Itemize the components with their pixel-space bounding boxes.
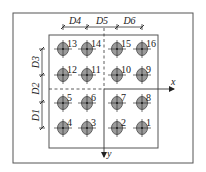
- dimension-label-d4: D4: [68, 15, 81, 26]
- hole-number-label: 11: [91, 64, 101, 75]
- hole-8: 8: [133, 92, 151, 112]
- hole-number-label: 9: [146, 64, 151, 75]
- hole-6: 6: [78, 92, 96, 112]
- hole-1: 1: [133, 117, 151, 137]
- hole-number-label: 10: [121, 64, 131, 75]
- dimension-label-d6: D6: [122, 15, 135, 26]
- dimension-label-d3: D3: [30, 56, 41, 69]
- hole-13: 13: [54, 38, 77, 58]
- hole-12: 12: [54, 64, 77, 84]
- hole-number-label: 13: [67, 38, 77, 49]
- hole-2: 2: [108, 117, 126, 137]
- hole-7: 7: [108, 92, 126, 112]
- hole-3: 3: [78, 117, 96, 137]
- hole-number-label: 1: [146, 117, 151, 128]
- hole-number-label: 8: [146, 92, 151, 103]
- hole-5: 5: [54, 92, 72, 112]
- hole-grid: 13141516121110956784321: [54, 38, 156, 137]
- diagram-svg: D4D5D6 D3D2D1 xy 13141516121110956784321: [0, 0, 206, 172]
- x-axis-label: x: [170, 76, 176, 87]
- dimension-label-d5: D5: [95, 15, 108, 26]
- dimension-label-d1: D1: [30, 109, 41, 122]
- hole-number-label: 2: [121, 117, 126, 128]
- hole-number-label: 5: [67, 92, 72, 103]
- hole-16: 16: [133, 38, 156, 58]
- hole-11: 11: [78, 64, 101, 84]
- hole-number-label: 16: [146, 38, 156, 49]
- hole-15: 15: [108, 38, 131, 58]
- hole-number-label: 14: [91, 38, 101, 49]
- hole-number-label: 15: [121, 38, 131, 49]
- hole-number-label: 6: [91, 92, 96, 103]
- hole-4: 4: [54, 117, 72, 137]
- hole-14: 14: [78, 38, 101, 58]
- hole-layout-diagram: D4D5D6 D3D2D1 xy 13141516121110956784321: [0, 0, 206, 172]
- hole-9: 9: [133, 64, 151, 84]
- top-dimension-line: D4D5D6: [61, 15, 144, 30]
- left-dimension-line: D3D2D1: [30, 47, 45, 130]
- hole-number-label: 4: [67, 117, 72, 128]
- hole-number-label: 3: [91, 117, 96, 128]
- hole-number-label: 7: [121, 92, 126, 103]
- hole-10: 10: [108, 64, 131, 84]
- hole-number-label: 12: [67, 64, 77, 75]
- y-axis-label: y: [106, 148, 112, 159]
- dimension-label-d2: D2: [30, 82, 41, 95]
